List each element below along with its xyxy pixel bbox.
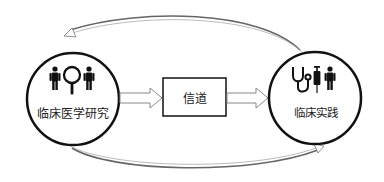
block-arrow-research-to-channel bbox=[120, 88, 162, 108]
feedback-arrow-top bbox=[64, 16, 302, 52]
node-research-label: 临床医学研究 bbox=[27, 104, 119, 121]
feedback-arrow-bottom bbox=[70, 144, 324, 168]
block-arrow-channel-to-practice bbox=[227, 88, 268, 108]
node-channel-label: 信道 bbox=[163, 89, 226, 106]
node-practice-label: 临床实践 bbox=[270, 104, 362, 120]
node-practice-circle bbox=[269, 52, 361, 144]
